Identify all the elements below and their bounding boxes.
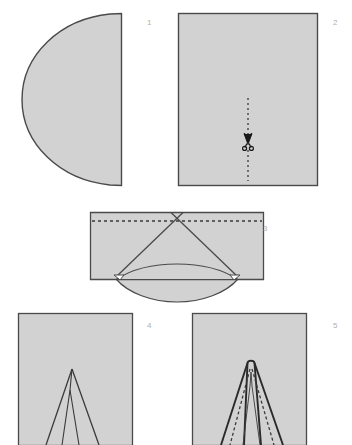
semicircle-shape <box>22 14 122 186</box>
panel-5-rect <box>193 314 307 445</box>
step-2-figure <box>179 14 318 186</box>
step-3-figure <box>91 213 264 303</box>
step-2-number: 2 <box>333 18 338 27</box>
step-4-number: 4 <box>147 321 152 330</box>
step-4-figure <box>19 314 133 445</box>
step-3-number: 3 <box>263 224 268 233</box>
diagram-canvas: 1 2 <box>0 0 352 445</box>
arc-underlay <box>116 278 238 302</box>
step-5-number: 5 <box>333 321 338 330</box>
instruction-diagram: 1 2 <box>0 0 352 445</box>
step-1-number: 1 <box>147 18 152 27</box>
step-1-figure <box>22 14 122 186</box>
step-5-figure <box>193 314 307 445</box>
